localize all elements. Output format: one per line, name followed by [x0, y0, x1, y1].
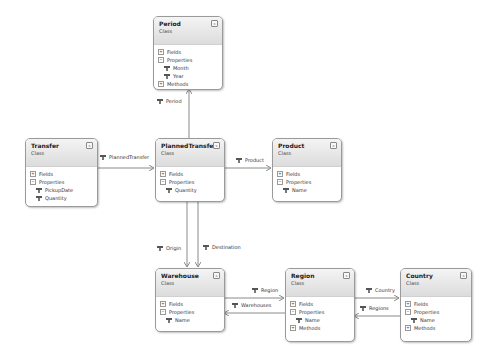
property-item[interactable]: Name: [290, 316, 350, 324]
collapse-section-icon[interactable]: −: [405, 309, 411, 315]
section-label: Fields: [167, 48, 181, 56]
association-warehouses[interactable]: Warehouses: [232, 302, 271, 308]
property-item[interactable]: Quantity: [30, 194, 93, 202]
class-header[interactable]: Warehouse Class «: [156, 269, 224, 297]
class-transfer[interactable]: Transfer Class « +Fields −Properties Pic…: [25, 138, 98, 207]
collapse-section-icon[interactable]: −: [160, 309, 166, 315]
property-icon: [166, 318, 172, 323]
class-country[interactable]: Country Class « +Fields −Properties Name…: [400, 268, 472, 342]
collapse-section-icon[interactable]: −: [160, 179, 166, 185]
section-properties[interactable]: −Properties: [290, 308, 350, 316]
property-icon: [236, 158, 242, 163]
association-planned-transfer[interactable]: PlannedTransfer: [100, 154, 149, 160]
section-methods[interactable]: +Methods: [158, 80, 218, 88]
property-item[interactable]: Month: [158, 64, 218, 72]
collapse-icon[interactable]: «: [86, 142, 93, 149]
expand-icon[interactable]: +: [290, 301, 296, 307]
class-period[interactable]: Period Class « +Fields −Properties Month…: [153, 16, 223, 90]
property-name: Name: [292, 186, 307, 194]
class-product[interactable]: Product Class « +Fields −Properties Name: [272, 138, 342, 202]
class-header[interactable]: PlannedTransfer Class «: [156, 139, 224, 167]
expand-icon[interactable]: +: [405, 325, 411, 331]
property-icon: [157, 246, 163, 251]
section-fields[interactable]: +Fields: [160, 300, 220, 308]
section-properties[interactable]: −Properties: [30, 178, 93, 186]
property-icon: [252, 288, 258, 293]
section-fields[interactable]: +Fields: [30, 170, 93, 178]
property-icon: [157, 99, 163, 104]
section-properties[interactable]: −Properties: [160, 308, 220, 316]
association-period[interactable]: Period: [157, 98, 182, 104]
association-origin[interactable]: Origin: [157, 245, 181, 251]
association-label: Warehouses: [241, 302, 271, 308]
collapse-section-icon[interactable]: −: [290, 309, 296, 315]
section-fields[interactable]: +Fields: [158, 48, 218, 56]
class-header[interactable]: Region Class «: [286, 269, 354, 297]
collapse-icon[interactable]: «: [460, 272, 467, 279]
property-icon: [411, 318, 417, 323]
section-fields[interactable]: +Fields: [290, 300, 350, 308]
collapse-icon[interactable]: «: [213, 272, 220, 279]
expand-icon[interactable]: +: [290, 325, 296, 331]
section-properties[interactable]: −Properties: [277, 178, 337, 186]
association-product[interactable]: Product: [236, 157, 264, 163]
expand-icon[interactable]: +: [158, 81, 164, 87]
property-item[interactable]: PickupDate: [30, 186, 93, 194]
property-item[interactable]: Name: [277, 186, 337, 194]
class-name: Country: [406, 272, 467, 280]
section-fields[interactable]: +Fields: [405, 300, 467, 308]
class-header[interactable]: Product Class «: [273, 139, 341, 167]
expand-icon[interactable]: +: [277, 171, 283, 177]
association-label: Product: [245, 157, 264, 163]
collapse-section-icon[interactable]: −: [158, 57, 164, 63]
collapse-icon[interactable]: «: [330, 142, 337, 149]
property-item[interactable]: Quantity: [160, 186, 220, 194]
class-header[interactable]: Country Class «: [401, 269, 471, 297]
property-icon: [360, 306, 366, 311]
expand-icon[interactable]: +: [160, 171, 166, 177]
class-planned-transfer[interactable]: PlannedTransfer Class « +Fields −Propert…: [155, 138, 225, 202]
section-methods[interactable]: +Methods: [290, 324, 350, 332]
property-name: Name: [420, 316, 435, 324]
section-label: Properties: [39, 178, 64, 186]
section-fields[interactable]: +Fields: [160, 170, 220, 178]
collapse-section-icon[interactable]: −: [277, 179, 283, 185]
property-item[interactable]: Name: [405, 316, 467, 324]
class-name: Region: [291, 272, 350, 280]
association-region[interactable]: Region: [252, 287, 278, 293]
section-label: Properties: [286, 178, 311, 186]
class-kind: Class: [161, 150, 220, 157]
class-kind: Class: [31, 150, 93, 157]
collapse-icon[interactable]: «: [213, 142, 220, 149]
class-warehouse[interactable]: Warehouse Class « +Fields −Properties Na…: [155, 268, 225, 332]
section-properties[interactable]: −Properties: [405, 308, 467, 316]
expand-icon[interactable]: +: [30, 171, 36, 177]
expand-icon[interactable]: +: [160, 301, 166, 307]
property-item[interactable]: Name: [160, 316, 220, 324]
property-item[interactable]: Year: [158, 72, 218, 80]
association-regions[interactable]: Regions: [360, 305, 389, 311]
section-methods[interactable]: +Methods: [405, 324, 467, 332]
property-icon: [296, 318, 302, 323]
class-header[interactable]: Period Class «: [154, 17, 222, 45]
property-name: Year: [173, 72, 184, 80]
section-label: Properties: [414, 308, 439, 316]
collapse-icon[interactable]: «: [343, 272, 350, 279]
association-country[interactable]: Country: [366, 287, 395, 293]
class-header[interactable]: Transfer Class «: [26, 139, 97, 167]
class-region[interactable]: Region Class « +Fields −Properties Name …: [285, 268, 355, 342]
section-properties[interactable]: −Properties: [160, 178, 220, 186]
association-destination[interactable]: Destination: [203, 244, 241, 250]
section-label: Properties: [169, 308, 194, 316]
collapse-section-icon[interactable]: −: [30, 179, 36, 185]
section-properties[interactable]: −Properties: [158, 56, 218, 64]
property-icon: [366, 288, 372, 293]
section-fields[interactable]: +Fields: [277, 170, 337, 178]
association-label: Country: [375, 287, 395, 293]
section-label: Properties: [167, 56, 192, 64]
collapse-icon[interactable]: «: [211, 20, 218, 27]
expand-icon[interactable]: +: [405, 301, 411, 307]
section-label: Properties: [169, 178, 194, 186]
association-label: Regions: [369, 305, 389, 311]
expand-icon[interactable]: +: [158, 49, 164, 55]
